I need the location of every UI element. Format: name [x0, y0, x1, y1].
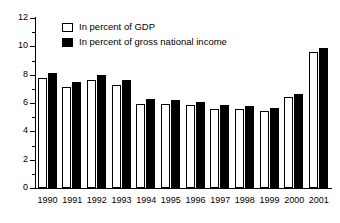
- x-axis-line: [35, 188, 332, 189]
- y-axis-tick-label: 10: [4, 41, 28, 50]
- bar-gni: [196, 102, 205, 188]
- chart-legend: In percent of GDPIn percent of gross nat…: [62, 20, 227, 50]
- bar-gni: [220, 105, 229, 188]
- legend-item: In percent of gross national income: [62, 35, 227, 49]
- legend-label: In percent of gross national income: [79, 37, 227, 47]
- bar-gni: [97, 75, 106, 188]
- bar-gdp: [210, 109, 219, 188]
- bar-gdp: [38, 78, 47, 189]
- y-axis-tick-label: 6: [4, 98, 28, 107]
- bar-gni: [122, 80, 131, 188]
- legend-swatch-gni: [62, 38, 73, 47]
- bar-gni: [270, 108, 279, 188]
- bar-gdp: [87, 80, 96, 188]
- bar-gdp: [309, 52, 318, 188]
- bar-gni: [245, 106, 254, 188]
- bar-gdp: [260, 111, 269, 188]
- bar-chart: 024681012 199019911992199319941995199619…: [0, 0, 340, 223]
- y-axis-tick-label: 2: [4, 155, 28, 164]
- y-axis-tick-label: 4: [4, 126, 28, 135]
- bar-group: [235, 18, 260, 188]
- bar-gni: [48, 73, 57, 188]
- y-axis-tick-label: 12: [4, 13, 28, 22]
- x-axis-tick-label: 2001: [299, 195, 339, 205]
- bar-group: [284, 18, 309, 188]
- legend-item: In percent of GDP: [62, 20, 227, 34]
- bar-gdp: [112, 85, 121, 188]
- bar-group: [309, 18, 334, 188]
- bar-gni: [319, 48, 328, 188]
- bar-gni: [294, 94, 303, 188]
- bar-gdp: [136, 104, 145, 188]
- bar-gdp: [235, 109, 244, 188]
- bar-group: [260, 18, 285, 188]
- y-axis-tick-label: 8: [4, 70, 28, 79]
- legend-swatch-gdp: [62, 23, 73, 32]
- legend-label: In percent of GDP: [79, 22, 155, 32]
- bar-gdp: [62, 87, 71, 188]
- bar-group: [38, 18, 63, 188]
- bar-gni: [72, 82, 81, 188]
- bar-gni: [171, 100, 180, 188]
- bar-gdp: [284, 97, 293, 188]
- y-axis-major-tick: [30, 188, 36, 189]
- bar-gdp: [161, 104, 170, 188]
- y-axis-tick-label: 0: [4, 183, 28, 192]
- bar-gdp: [186, 105, 195, 188]
- bar-gni: [146, 99, 155, 188]
